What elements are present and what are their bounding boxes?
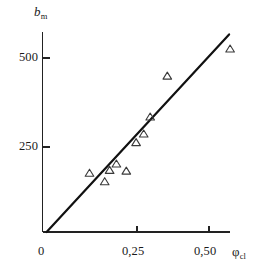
x-axis-title-subscript: cl	[240, 251, 246, 261]
y-tick-label-500: 500	[6, 50, 38, 65]
data-point-marker	[163, 72, 172, 79]
y-tick-label-250: 250	[6, 139, 38, 154]
data-points-group	[85, 45, 234, 185]
x-tick-label-050: 0,50	[194, 244, 216, 259]
x-axis-title: φcl	[232, 244, 246, 260]
y-axis-title-base: b	[34, 4, 41, 19]
data-point-marker	[226, 45, 235, 52]
x-tick-label-0: 0	[38, 244, 44, 259]
data-point-marker	[122, 167, 131, 174]
regression-line	[47, 34, 230, 232]
data-point-marker	[100, 178, 109, 185]
data-point-marker	[85, 169, 94, 176]
y-axis-title: bm	[34, 4, 47, 20]
y-axis-title-subscript: m	[41, 11, 48, 21]
x-tick-label-025: 0,25	[122, 244, 144, 259]
chart-figure: bm φcl 500 250 0 0,25 0,50	[0, 0, 266, 275]
x-axis-title-base: φ	[232, 244, 240, 259]
plot-area	[0, 0, 266, 275]
